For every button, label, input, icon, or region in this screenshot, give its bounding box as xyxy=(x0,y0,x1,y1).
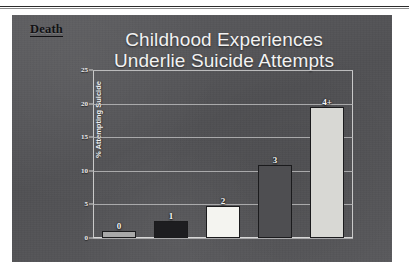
bar-label-1: 1 xyxy=(169,211,174,221)
bar-label-2: 2 xyxy=(221,196,226,206)
bar-label-3: 3 xyxy=(273,155,278,165)
y-axis-tick-label: 25 xyxy=(81,66,88,74)
chart-title-line-1: Childhood Experiences xyxy=(74,29,374,50)
y-axis-tick-mark xyxy=(89,103,93,104)
gridline xyxy=(93,238,353,239)
bar-label-4+: 4+ xyxy=(322,97,332,107)
y-axis-tick-mark xyxy=(89,70,93,71)
page-top-rule-shadow xyxy=(0,8,409,9)
y-axis-tick-mark xyxy=(89,170,93,171)
y-axis-tick-mark xyxy=(89,137,93,138)
bar-0: 0 xyxy=(102,231,136,238)
y-axis-tick-label: 5 xyxy=(85,200,89,208)
chart-title-line-2: Underlie Suicide Attempts xyxy=(74,50,374,71)
bar-2: 2 xyxy=(206,206,240,238)
y-axis-tick-mark xyxy=(89,238,93,239)
y-axis-tick-label: 15 xyxy=(81,133,88,141)
y-axis-tick-label: 20 xyxy=(81,100,88,108)
page-top-rule xyxy=(0,6,409,7)
bar-1: 1 xyxy=(154,221,188,238)
bar-4+: 4+ xyxy=(310,107,344,238)
gridline xyxy=(93,70,353,71)
chart-title: Childhood Experiences Underlie Suicide A… xyxy=(74,29,374,71)
y-axis-tick-label: 10 xyxy=(81,167,88,175)
y-axis-tick-label: 0 xyxy=(85,234,89,242)
bar-3: 3 xyxy=(258,165,292,238)
section-tag-death: Death xyxy=(30,22,63,37)
y-axis-tick-mark xyxy=(89,204,93,205)
slide-figure: Death Childhood Experiences Underlie Sui… xyxy=(12,15,392,262)
bar-label-0: 0 xyxy=(117,221,122,231)
plot-area: 0510152025 01234+ xyxy=(93,70,353,238)
gridline xyxy=(93,104,353,105)
